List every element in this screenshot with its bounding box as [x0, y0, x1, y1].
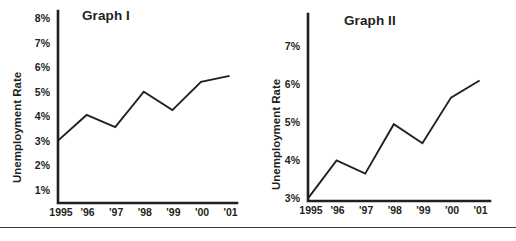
axes-graph-1	[58, 11, 237, 203]
chart-panel-graph-2: Graph II Unemployment Rate 3%4%5%6%7% 19…	[258, 0, 516, 218]
y-tick-graph-1-2pct: 2%	[0, 160, 50, 171]
x-tick-graph-1-99: '99	[166, 207, 180, 218]
x-tick-graph-2-00: '00	[445, 205, 459, 216]
x-tick-graph-2-01: '01	[474, 205, 488, 216]
y-tick-graph-2-3pct: 3%	[258, 193, 300, 204]
data-series-unemployment-graph-1	[58, 76, 230, 141]
y-tick-graph-2-5pct: 5%	[258, 117, 300, 128]
x-tick-graph-2-96: '96	[331, 205, 345, 216]
x-tick-graph-1-00: '00	[195, 207, 209, 218]
plot-area-graph-2	[258, 0, 516, 218]
x-tick-graph-2-99: '99	[416, 205, 430, 216]
y-tick-graph-1-7pct: 7%	[0, 38, 50, 49]
y-tick-graph-2-4pct: 4%	[258, 155, 300, 166]
y-tick-graph-1-8pct: 8%	[0, 13, 50, 24]
y-tick-graph-1-1pct: 1%	[0, 184, 50, 195]
x-tick-graph-2-1995: 1995	[299, 205, 322, 216]
y-tick-graph-1-4pct: 4%	[0, 111, 50, 122]
data-series-unemployment-graph-2	[308, 81, 480, 199]
x-tick-graph-1-97: '97	[109, 207, 123, 218]
axes-graph-2	[308, 14, 490, 201]
x-tick-graph-1-96: '96	[81, 207, 95, 218]
chart-panel-graph-1: Graph I Unemployment Rate 1%2%3%4%5%6%7%…	[0, 0, 258, 218]
y-tick-graph-2-6pct: 6%	[258, 79, 300, 90]
y-tick-graph-2-7pct: 7%	[258, 41, 300, 52]
y-tick-graph-1-5pct: 5%	[0, 86, 50, 97]
y-tick-graph-1-6pct: 6%	[0, 62, 50, 73]
y-tick-graph-1-3pct: 3%	[0, 135, 50, 146]
x-tick-graph-1-1995: 1995	[49, 207, 72, 218]
x-tick-graph-2-98: '98	[388, 205, 402, 216]
footer-divider	[0, 227, 516, 228]
x-tick-graph-1-01: '01	[224, 207, 238, 218]
figure-root: Graph I Unemployment Rate 1%2%3%4%5%6%7%…	[0, 0, 516, 241]
x-tick-graph-2-97: '97	[359, 205, 373, 216]
x-tick-graph-1-98: '98	[138, 207, 152, 218]
